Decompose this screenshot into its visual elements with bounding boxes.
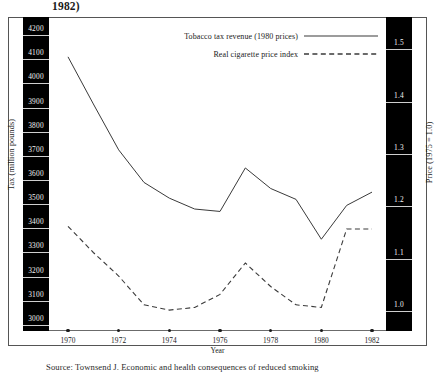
left-tick-label: 3800 — [23, 122, 49, 130]
right-tick-separator — [386, 102, 412, 103]
right-tick-separator — [386, 206, 412, 207]
x-tick-label: 1982 — [352, 336, 392, 345]
legend-item-label: Tobacco tax revenue (1980 prices) — [184, 32, 304, 41]
series-lines — [49, 17, 386, 331]
left-tick-separator — [23, 59, 49, 60]
left-tick-label: 3000 — [23, 315, 49, 323]
right-tick-separator — [386, 49, 412, 50]
x-axis-title: Year — [0, 346, 435, 355]
x-tick-label: 1970 — [48, 336, 88, 345]
legend-item: Real cigarette price index — [148, 45, 378, 63]
left-tick-label: 3100 — [23, 291, 49, 299]
left-tick-label: 4200 — [23, 25, 49, 33]
x-tick-label: 1978 — [251, 336, 291, 345]
x-tick-label: 1972 — [99, 336, 139, 345]
right-tick-separator — [386, 154, 412, 155]
right-tick-label: 1.0 — [386, 301, 412, 309]
left-tick-label: 3400 — [23, 218, 49, 226]
x-tick-label: 1974 — [149, 336, 189, 345]
left-tick-separator — [23, 83, 49, 84]
right-tick-separator — [386, 259, 412, 260]
left-tick-separator — [23, 132, 49, 133]
x-tick-label: 1976 — [200, 336, 240, 345]
legend: Tobacco tax revenue (1980 prices)Real ci… — [148, 27, 378, 63]
legend-item-label: Real cigarette price index — [213, 50, 304, 59]
right-tick-label: 1.5 — [386, 39, 412, 47]
x-tick-marker — [370, 329, 373, 332]
x-tick-marker — [218, 329, 221, 332]
left-tick-label: 3600 — [23, 170, 49, 178]
left-tick-separator — [23, 156, 49, 157]
left-tick-label: 4100 — [23, 49, 49, 57]
source-note: Source: Townsend J. Economic and health … — [46, 362, 319, 372]
left-tick-separator — [23, 277, 49, 278]
y-axis-title-left: Tax (million pounds) — [7, 100, 16, 210]
right-tick-label: 1.4 — [386, 92, 412, 100]
right-tick-label: 1.2 — [386, 196, 412, 204]
legend-dashed-line-icon — [304, 50, 378, 58]
legend-solid-line-icon — [304, 32, 378, 40]
figure-container: 1982) Tax (million pounds) Price (1975 =… — [0, 0, 435, 372]
left-tick-separator — [23, 228, 49, 229]
x-tick-label: 1980 — [301, 336, 341, 345]
left-tick-separator — [23, 180, 49, 181]
left-tick-separator — [23, 325, 49, 326]
left-tick-label: 3300 — [23, 242, 49, 250]
x-tick-marker — [66, 329, 69, 332]
series-line — [68, 226, 372, 310]
series-line — [68, 57, 372, 239]
plot-area — [49, 17, 386, 331]
left-tick-label: 3700 — [23, 146, 49, 154]
left-tick-separator — [23, 204, 49, 205]
right-axis-tick-band — [386, 17, 412, 331]
left-tick-separator — [23, 252, 49, 253]
x-tick-marker — [168, 329, 171, 332]
caption-fragment: 1982) — [52, 0, 80, 12]
right-tick-label: 1.3 — [386, 144, 412, 152]
left-tick-label: 3500 — [23, 194, 49, 202]
left-tick-separator — [23, 35, 49, 36]
legend-item: Tobacco tax revenue (1980 prices) — [148, 27, 378, 45]
left-tick-label: 3900 — [23, 98, 49, 106]
right-tick-label: 1.1 — [386, 249, 412, 257]
x-tick-marker — [320, 329, 323, 332]
left-tick-separator — [23, 108, 49, 109]
left-tick-label: 4000 — [23, 73, 49, 81]
right-tick-separator — [386, 311, 412, 312]
left-tick-separator — [23, 301, 49, 302]
y-axis-title-right: Price (1975 = 1.0) — [425, 98, 434, 208]
left-tick-label: 3200 — [23, 267, 49, 275]
